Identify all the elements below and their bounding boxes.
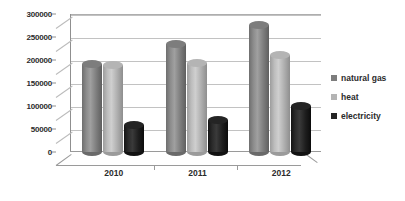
- floor-front-edge: [56, 165, 301, 166]
- bar-natural-gas-2012: [249, 21, 269, 152]
- y-axis: 050000100000150000200000250000300000: [0, 14, 56, 152]
- bar-heat-2010: [103, 61, 123, 152]
- bar-body: [187, 63, 207, 152]
- y-axis-tick-label: 50000: [31, 125, 52, 134]
- bar-top-ellipse: [208, 116, 228, 124]
- bar-body: [166, 44, 186, 152]
- legend-item-heat[interactable]: heat: [331, 92, 405, 102]
- legend-swatch-icon: [331, 75, 337, 81]
- x-axis: 201020112012: [56, 168, 321, 186]
- y-axis-tick-label: 200000: [27, 56, 53, 65]
- bar-body: [270, 55, 290, 152]
- bar-body: [291, 106, 311, 152]
- bar-body: [249, 25, 269, 152]
- bar-body: [124, 125, 144, 152]
- bar-natural-gas-2010: [82, 60, 102, 152]
- bar-top-ellipse: [270, 51, 290, 59]
- bar-top-ellipse: [249, 21, 269, 29]
- y-axis-tick-label: 100000: [27, 102, 53, 111]
- y-axis-tick-label: 150000: [27, 79, 53, 88]
- bar-body: [208, 120, 228, 152]
- x-axis-tick-label: 2010: [104, 168, 123, 178]
- legend-item-label: natural gas: [341, 73, 386, 83]
- bar-group: [82, 60, 144, 152]
- legend-item-natural-gas[interactable]: natural gas: [331, 73, 405, 83]
- bar-top-ellipse: [103, 61, 123, 69]
- bar-group: [249, 21, 311, 152]
- plot-area: [56, 14, 321, 166]
- bar-top-ellipse: [82, 60, 102, 68]
- bar-electricity-2012: [291, 102, 311, 152]
- legend-item-label: heat: [341, 92, 358, 102]
- bar-electricity-2010: [124, 121, 144, 152]
- x-axis-separator: [237, 165, 238, 170]
- x-axis-tick-label: 2012: [272, 168, 291, 178]
- bar-heat-2012: [270, 51, 290, 152]
- legend-swatch-icon: [331, 113, 337, 119]
- bar-top-ellipse: [187, 59, 207, 67]
- bar-electricity-2011: [208, 116, 228, 152]
- bar-chart: 050000100000150000200000250000300000 201…: [0, 0, 405, 201]
- y-axis-tick-label: 300000: [27, 10, 53, 19]
- bar-group: [166, 40, 228, 152]
- bar-heat-2011: [187, 59, 207, 152]
- chart-legend: natural gasheatelectricity: [331, 73, 405, 130]
- x-axis-tick-label: 2011: [188, 168, 206, 178]
- legend-item-electricity[interactable]: electricity: [331, 111, 405, 121]
- x-axis-separator: [154, 165, 155, 170]
- legend-swatch-icon: [331, 94, 337, 100]
- y-axis-tick-label: 250000: [27, 33, 53, 42]
- bar-series-container: [70, 14, 321, 152]
- legend-item-label: electricity: [341, 111, 381, 121]
- bar-natural-gas-2011: [166, 40, 186, 152]
- bar-top-ellipse: [124, 121, 144, 129]
- bar-body: [82, 64, 102, 152]
- bar-body: [103, 65, 123, 152]
